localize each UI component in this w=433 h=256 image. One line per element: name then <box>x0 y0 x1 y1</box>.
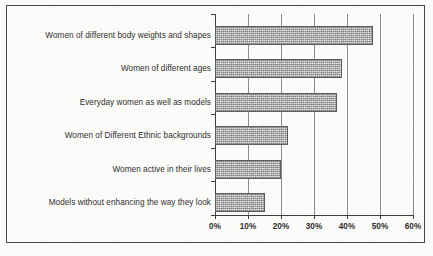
bar-4[interactable] <box>215 160 281 179</box>
x-tick-label-6: 60% <box>393 222 433 231</box>
x-axis-tick <box>347 215 348 219</box>
category-label-1: Women of different ages <box>1 64 211 73</box>
x-axis-tick <box>248 215 249 219</box>
category-label-3: Women of Different Ethnic backgrounds <box>1 131 211 140</box>
category-label-5: Models without enhancing the way they lo… <box>1 198 211 207</box>
gridline-50 <box>380 14 381 215</box>
x-axis-tick <box>314 215 315 219</box>
y-axis-tick <box>211 148 215 149</box>
x-axis-tick <box>380 215 381 219</box>
y-axis-tick <box>211 14 215 15</box>
y-axis-tick <box>211 181 215 182</box>
chart-page: Women of different body weights and shap… <box>0 0 433 256</box>
bar-2[interactable] <box>215 93 337 112</box>
bar-0[interactable] <box>215 26 373 45</box>
y-axis-tick <box>211 81 215 82</box>
bar-5[interactable] <box>215 193 265 212</box>
y-axis-tick <box>211 47 215 48</box>
category-label-0: Women of different body weights and shap… <box>1 31 211 40</box>
x-axis-tick <box>413 215 414 219</box>
category-label-4: Women active in their lives <box>1 165 211 174</box>
gridline-60 <box>413 14 414 215</box>
bar-3[interactable] <box>215 126 288 145</box>
bar-1[interactable] <box>215 59 342 78</box>
y-axis-tick <box>211 114 215 115</box>
x-axis-tick <box>215 215 216 219</box>
category-label-2: Everyday women as well as models <box>1 98 211 107</box>
x-axis-tick <box>281 215 282 219</box>
